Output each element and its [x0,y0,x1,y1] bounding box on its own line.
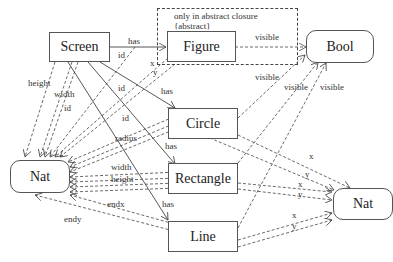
node-figure[interactable]: Figure [167,31,236,62]
label-figure-id: id [118,51,125,60]
closure-note-line1: only in abstract closure [174,11,258,21]
label-line-visible: visible [320,83,344,92]
label-rectangle-width: width [111,163,132,172]
edge-screen-rectangle-has [88,62,175,164]
label-screen-circle-has: has [161,87,173,96]
label-rectangle-id: id [122,114,129,123]
label-rectangle-x: x [298,180,303,189]
node-circle[interactable]: Circle [168,108,238,139]
label-figure-y: y [153,68,158,77]
label-line-endx: endx [107,200,125,209]
node-nat-left[interactable]: Nat [10,160,70,193]
node-rectangle-label: Rectangle [175,171,231,187]
label-line-x: x [292,211,297,220]
node-rectangle[interactable]: Rectangle [168,163,238,194]
label-circle-y: y [305,170,310,179]
node-figure-label: Figure [183,39,220,55]
label-rectangle-visible: visible [284,83,308,92]
label-screen-id: id [64,104,71,113]
label-screen-width: width [54,90,75,99]
node-line[interactable]: Line [168,221,238,252]
label-circle-id: id [118,84,125,93]
label-circle-radius: radius [115,134,137,143]
node-bool[interactable]: Bool [306,30,374,63]
label-screen-line-has: has [162,200,174,209]
label-circle-x: x [309,152,314,161]
closure-note: only in abstract closure {abstract} [174,11,258,32]
label-line-endy: endy [64,215,82,224]
label-screen-rectangle-has: has [165,142,177,151]
label-screen-height: height [28,79,51,88]
node-circle-label: Circle [186,116,220,132]
node-nat-right[interactable]: Nat [333,188,393,220]
node-screen[interactable]: Screen [49,32,110,62]
label-figure-visible: visible [255,33,279,42]
label-rectangle-y: y [298,190,303,199]
node-nat-left-label: Nat [30,169,50,185]
node-bool-label: Bool [326,39,353,55]
node-screen-label: Screen [60,39,98,55]
node-line-label: Line [190,229,216,245]
label-rectangle-height: height [111,175,134,184]
node-nat-right-label: Nat [353,196,373,212]
label-screen-figure-has: has [128,37,140,46]
label-line-y: y [292,222,297,231]
label-circle-visible: visible [255,73,279,82]
